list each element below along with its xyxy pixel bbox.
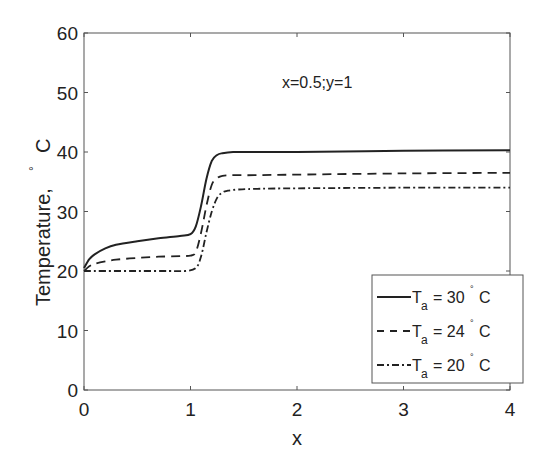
svg-text:°: °: [470, 284, 474, 294]
chart-legend: Ta= 30°CTa= 24°CTa= 20°C: [372, 275, 523, 383]
x-tick-label: 0: [79, 399, 90, 420]
y-tick-label: 0: [67, 380, 78, 401]
x-tick-label: 1: [185, 399, 196, 420]
y-tick-label: 30: [57, 202, 78, 223]
temperature-chart: 012340102030405060 x=0.5;y=1 x Temperatu…: [0, 0, 541, 470]
chart-annotation: x=0.5;y=1: [282, 74, 352, 91]
svg-text:°: °: [27, 166, 41, 171]
x-tick-label: 3: [398, 399, 409, 420]
y-tick-label: 50: [57, 83, 78, 104]
y-tick-label: 60: [57, 23, 78, 44]
x-axis-label: x: [292, 427, 302, 449]
y-axis-label: Temperature, ° C: [27, 139, 54, 306]
svg-text:C: C: [479, 289, 491, 306]
x-tick-label: 4: [505, 399, 516, 420]
svg-text:C: C: [479, 357, 491, 374]
svg-text:C: C: [479, 323, 491, 340]
svg-text:= 20: = 20: [433, 357, 465, 374]
svg-text:= 24: = 24: [433, 323, 465, 340]
y-tick-label: 10: [57, 321, 78, 342]
svg-text:a: a: [421, 333, 428, 347]
y-tick-label: 40: [57, 142, 78, 163]
svg-text:a: a: [421, 299, 428, 313]
svg-text:°: °: [470, 352, 474, 362]
svg-text:C: C: [32, 139, 54, 153]
svg-text:°: °: [470, 318, 474, 328]
svg-text:Temperature,: Temperature,: [32, 188, 54, 306]
svg-text:= 30: = 30: [433, 289, 465, 306]
y-tick-label: 20: [57, 261, 78, 282]
svg-text:a: a: [421, 367, 428, 381]
x-tick-label: 2: [292, 399, 303, 420]
